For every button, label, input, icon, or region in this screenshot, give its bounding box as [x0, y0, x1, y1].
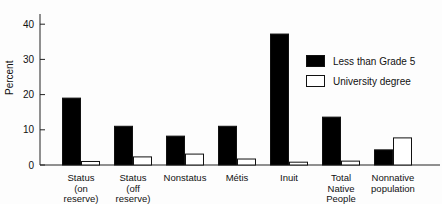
bar — [82, 161, 100, 165]
x-category-label: TotalNativePeople — [311, 173, 371, 204]
bar — [290, 162, 308, 165]
bar — [271, 34, 289, 165]
legend-swatch-white — [306, 75, 325, 87]
legend-label: Less than Grade 5 — [333, 56, 415, 67]
y-tick-label: 40 — [23, 19, 35, 30]
x-category-label: Nonnativepopulation — [363, 173, 423, 194]
x-category-label: Nonstatus — [155, 173, 215, 184]
bar — [375, 150, 393, 165]
legend-label: University degree — [333, 76, 411, 87]
bar — [394, 138, 412, 165]
bar — [115, 126, 133, 165]
x-category-label: Status(onreserve) — [51, 173, 111, 204]
bar — [219, 126, 237, 165]
bar — [63, 98, 81, 165]
legend: Less than Grade 5 University degree — [306, 51, 415, 91]
bar — [323, 117, 341, 165]
bar — [342, 161, 360, 165]
y-tick-label: 0 — [28, 160, 34, 171]
x-category-label: Status(offreserve) — [103, 173, 163, 204]
x-category-label: Inuit — [259, 173, 319, 184]
y-tick-label: 20 — [23, 89, 35, 100]
bar — [134, 157, 152, 165]
legend-swatch-black — [306, 55, 325, 67]
bar — [238, 159, 256, 165]
bar-chart: 010203040 Percent Less than Grade 5 Univ… — [0, 0, 442, 204]
legend-item-grade5: Less than Grade 5 — [306, 51, 415, 71]
legend-item-university: University degree — [306, 71, 415, 91]
bar — [186, 154, 204, 165]
bar — [167, 136, 185, 165]
y-tick-label: 10 — [23, 124, 35, 135]
y-axis-label: Percent — [4, 61, 15, 95]
x-category-label: Métis — [207, 173, 267, 184]
y-tick-label: 30 — [23, 54, 35, 65]
